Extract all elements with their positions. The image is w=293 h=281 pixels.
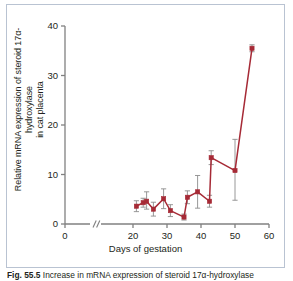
figure-caption: Fig. 55.5 Increase in mRNA expression of…: [7, 271, 289, 281]
x-axis-tick-label: 0: [62, 230, 67, 241]
data-point-marker: [162, 197, 166, 201]
y-axis-tick-label: 10: [47, 169, 58, 180]
data-point-marker: [185, 195, 189, 199]
figure-caption-text: Increase in mRNA expression of steroid 1…: [43, 271, 254, 280]
data-point-marker: [209, 156, 213, 160]
figure-frame: Relative mRNA expression of steroid 17α-…: [6, 4, 285, 268]
data-point-marker: [207, 199, 211, 203]
data-point-marker: [196, 190, 200, 194]
data-point-marker: [233, 168, 237, 172]
x-axis-tick-label: 20: [128, 230, 139, 241]
data-point-marker: [168, 209, 172, 213]
x-axis-tick-label: 60: [264, 230, 275, 241]
x-axis-tick-label: 40: [196, 230, 207, 241]
figure-page: Relative mRNA expression of steroid 17α-…: [0, 0, 293, 281]
data-point-marker: [151, 207, 155, 211]
data-point-marker: [250, 46, 254, 50]
y-axis-tick-label: 0: [53, 218, 58, 229]
y-axis-tick-label: 30: [47, 70, 58, 81]
figure-caption-label: Fig. 55.5: [7, 271, 41, 280]
y-axis-tick-label: 40: [47, 20, 58, 31]
x-axis-title: Days of gestation: [7, 243, 284, 254]
data-point-marker: [145, 199, 149, 203]
x-axis-tick-label: 50: [230, 230, 241, 241]
data-point-marker: [134, 204, 138, 208]
y-axis-tick-label: 20: [47, 119, 58, 130]
x-axis-tick-label: 30: [162, 230, 173, 241]
plot-area: Relative mRNA expression of steroid 17α-…: [7, 5, 284, 267]
chart-canvas: 01020304002030405060: [7, 5, 284, 267]
data-series-layer: [134, 45, 255, 220]
data-point-marker: [182, 215, 186, 219]
